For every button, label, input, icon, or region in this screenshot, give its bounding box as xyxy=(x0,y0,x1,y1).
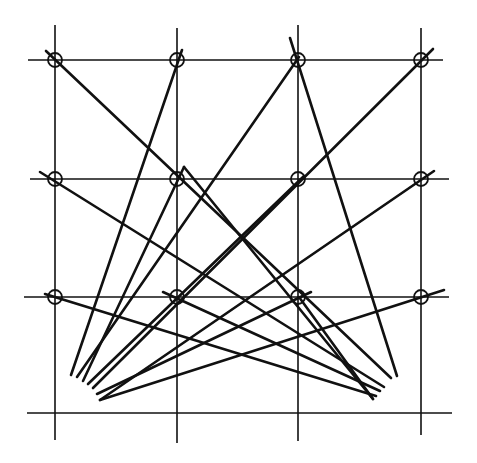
ray-line xyxy=(45,294,376,396)
ray-line xyxy=(71,50,182,375)
ray-lines xyxy=(40,38,444,400)
ray-line xyxy=(46,51,391,378)
ray-line xyxy=(100,290,444,400)
ray-line xyxy=(100,171,434,400)
grid-ray-diagram xyxy=(0,0,477,463)
